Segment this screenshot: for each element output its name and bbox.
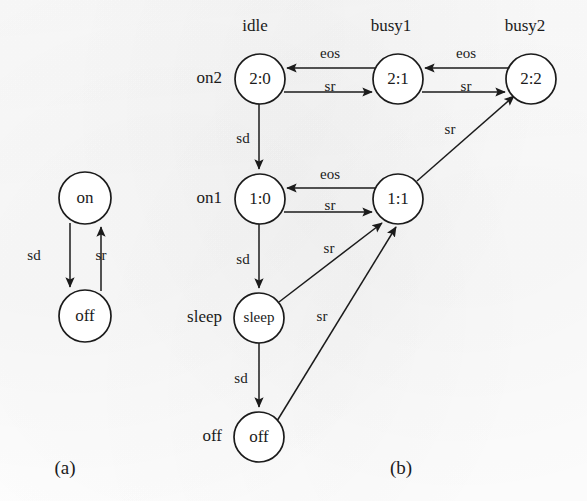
edge-label-eos-mid: eos <box>320 166 340 182</box>
edge-label-sr-top-left: sr <box>325 78 336 94</box>
node-1-0-label: 1:0 <box>249 189 271 208</box>
node-sleep[interactable]: sleep <box>234 293 284 343</box>
col-label-idle: idle <box>242 16 268 35</box>
edge-label-sd-sleep-off: sd <box>234 370 248 386</box>
node-1-0[interactable]: 1:0 <box>235 174 285 224</box>
edge-label-eos-top-right: eos <box>456 45 476 61</box>
edge-label-sr-mid: sr <box>325 197 336 213</box>
node-on-label: on <box>77 188 95 207</box>
node-1-1[interactable]: 1:1 <box>373 174 423 224</box>
node-off-label: off <box>75 306 95 325</box>
edge-label-eos-top-left: eos <box>320 45 340 61</box>
node-2-0[interactable]: 2:0 <box>235 54 285 104</box>
node-sleep-label: sleep <box>244 309 275 325</box>
node-1-1-label: 1:1 <box>387 189 409 208</box>
node-2-0-label: 2:0 <box>249 69 271 88</box>
edge-label-sd-on1-sleep: sd <box>236 251 250 267</box>
edge-label-sr-off-11: sr <box>317 308 328 324</box>
node-2-2-label: 2:2 <box>520 69 542 88</box>
edge-label-sr-sleep-11: sr <box>324 240 335 256</box>
edge-label-sr-a: sr <box>96 247 107 263</box>
node-off-b-label: off <box>249 427 269 446</box>
edge-11-to-22 <box>417 96 514 181</box>
node-2-1-label: 2:1 <box>387 69 409 88</box>
diagram-a: on off sd sr (a) <box>27 172 111 479</box>
edge-label-sd-on2-on1: sd <box>236 130 250 146</box>
node-off[interactable]: off <box>59 290 111 342</box>
edge-label-sr-top-right: sr <box>461 78 472 94</box>
node-2-1[interactable]: 2:1 <box>373 54 423 104</box>
diagram-b: idle busy1 busy2 on2 on1 sleep off eos s… <box>187 16 556 479</box>
row-label-on1: on1 <box>197 188 223 207</box>
edge-off-to-11 <box>277 227 396 421</box>
edge-label-sr-diag-22: sr <box>445 121 456 137</box>
node-on[interactable]: on <box>59 172 111 224</box>
node-off-b[interactable]: off <box>234 412 284 462</box>
caption-a: (a) <box>54 457 75 479</box>
node-2-2[interactable]: 2:2 <box>506 54 556 104</box>
edge-label-sd-a: sd <box>27 247 41 263</box>
col-label-busy2: busy2 <box>505 16 546 35</box>
row-label-on2: on2 <box>197 68 223 87</box>
edge-sleep-to-11 <box>279 223 382 302</box>
caption-b: (b) <box>390 457 412 479</box>
row-label-off: off <box>202 426 222 445</box>
col-label-busy1: busy1 <box>371 16 412 35</box>
row-label-sleep: sleep <box>187 307 222 326</box>
figure-canvas: on off sd sr (a) idle busy1 busy2 on2 on… <box>0 0 587 501</box>
